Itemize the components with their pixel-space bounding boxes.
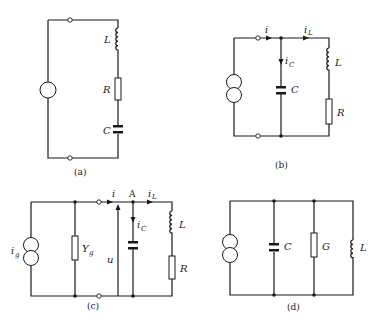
- current-arrow-ic: [131, 217, 136, 223]
- current-label-i: i: [265, 24, 268, 35]
- voltage-label: u: [107, 254, 113, 265]
- capacitor-icon: [269, 243, 279, 246]
- capacitor-icon: [113, 125, 123, 128]
- capacitor-label: C: [284, 241, 292, 252]
- voltage-source-icon: [40, 82, 56, 98]
- circuit-c: i g Y g i u A i L i C L: [11, 188, 188, 311]
- wire-left-lower: [230, 259, 353, 295]
- admittance-icon: [72, 236, 78, 260]
- inductor-label: L: [359, 242, 367, 253]
- resistor-label: R: [336, 107, 345, 118]
- terminal-top: [256, 36, 260, 40]
- terminal-bottom: [97, 294, 101, 298]
- terminal-top: [68, 18, 72, 22]
- resistor-icon: [169, 256, 175, 279]
- caption-d: (d): [287, 302, 300, 312]
- current-label-il: i: [148, 188, 151, 199]
- inductor-icon: [170, 211, 172, 256]
- inductor-label: L: [178, 219, 186, 230]
- svg-text:L: L: [151, 193, 157, 201]
- svg-text:C: C: [289, 61, 295, 69]
- terminal-bottom: [256, 134, 260, 138]
- current-label-ic: i: [137, 219, 140, 230]
- current-label-i: i: [112, 188, 115, 199]
- current-arrow-i: [266, 36, 272, 41]
- caption-c: (c): [87, 301, 99, 311]
- wire-top: [48, 20, 118, 28]
- capacitor-label: C: [103, 125, 111, 136]
- resistor-icon: [115, 78, 121, 100]
- svg-text:C: C: [141, 225, 147, 233]
- conductance-label: G: [322, 241, 330, 252]
- node-label: A: [128, 189, 136, 199]
- resistor-label: R: [179, 263, 188, 274]
- caption-b: (b): [275, 160, 288, 170]
- current-label-ic: i: [285, 55, 288, 66]
- current-label-il: i: [304, 24, 307, 35]
- capacitor-icon: [276, 86, 286, 89]
- svg-text:L: L: [307, 29, 313, 37]
- svg-text:g: g: [15, 251, 20, 259]
- capacitor-label: C: [291, 84, 299, 95]
- current-arrow-ic: [279, 59, 284, 65]
- circuit-b: i i L i C C L R (b): [227, 24, 346, 170]
- terminal-top: [97, 200, 101, 204]
- resistor-icon: [326, 99, 332, 124]
- inductor-icon: [327, 48, 329, 99]
- resistor-label: R: [102, 84, 111, 95]
- circuit-figure: L R C (a) i i L i C C: [0, 0, 378, 324]
- wire-left-lower: [31, 266, 172, 296]
- capacitor-icon: [128, 241, 138, 244]
- svg-text:g: g: [89, 249, 94, 257]
- circuit-a: L R C (a): [40, 18, 123, 177]
- wire-top: [31, 202, 172, 211]
- inductor-label: L: [103, 34, 111, 45]
- caption-a: (a): [74, 167, 86, 177]
- current-arrow-i: [107, 200, 113, 205]
- conductance-icon: [311, 233, 317, 257]
- source-label: i: [11, 245, 14, 256]
- inductor-icon: [116, 28, 118, 78]
- terminal-bottom: [68, 156, 72, 160]
- wire-top: [230, 201, 353, 240]
- inductor-icon: [351, 240, 353, 259]
- circuit-d: C G L (d): [223, 199, 368, 312]
- inductor-label: L: [334, 57, 342, 68]
